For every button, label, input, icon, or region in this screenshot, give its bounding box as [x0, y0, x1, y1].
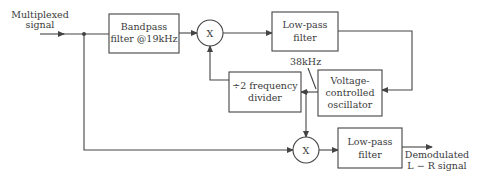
- block-diagram: Multiplexed signal Bandpass filter @19kH…: [0, 0, 481, 177]
- lowpass-filter-top-block: Low-pass filter: [272, 12, 338, 51]
- divider-to-mixer-wire: [210, 46, 229, 80]
- frequency-pointer: [308, 68, 316, 89]
- svg-text:filter @19kHz: filter @19kHz: [110, 33, 177, 44]
- lowpass-filter-bottom-block: Low-pass filter: [338, 128, 402, 168]
- svg-text:L − R signal: L − R signal: [407, 160, 466, 171]
- bandpass-filter-block: Bandpass filter @19kHz: [109, 14, 179, 53]
- svg-text:controlled: controlled: [325, 87, 374, 98]
- vco-block: Voltage- controlled oscillator: [318, 70, 382, 116]
- svg-text:Demodulated: Demodulated: [405, 149, 469, 160]
- svg-text:Low-pass: Low-pass: [283, 19, 328, 30]
- svg-text:divider: divider: [248, 92, 282, 103]
- svg-text:filter: filter: [293, 32, 317, 43]
- svg-text:Voltage-: Voltage-: [329, 75, 369, 86]
- svg-text:÷2 frequency: ÷2 frequency: [232, 80, 298, 91]
- input-label: Multiplexed signal: [11, 9, 69, 30]
- svg-text:oscillator: oscillator: [328, 99, 373, 110]
- frequency-divider-block: ÷2 frequency divider: [229, 72, 301, 112]
- svg-text:X: X: [303, 145, 310, 156]
- svg-text:X: X: [207, 28, 214, 39]
- svg-text:Low-pass: Low-pass: [348, 136, 393, 147]
- svg-text:Bandpass: Bandpass: [121, 21, 167, 32]
- mixer-top: X: [197, 20, 223, 46]
- frequency-label: 38kHz: [290, 56, 321, 67]
- mixer-bottom: X: [293, 137, 319, 163]
- svg-text:signal: signal: [26, 19, 55, 30]
- output-label: Demodulated L − R signal: [405, 149, 469, 171]
- svg-text:filter: filter: [358, 149, 382, 160]
